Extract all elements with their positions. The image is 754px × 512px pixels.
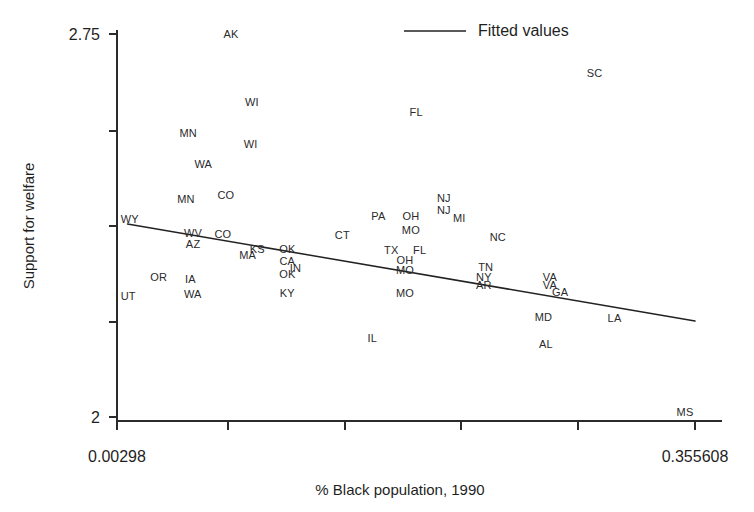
legend: Fitted values <box>404 22 569 39</box>
data-point-label: MD <box>535 311 553 323</box>
data-point-label: KY <box>280 287 296 299</box>
x-axis-title: % Black population, 1990 <box>315 481 484 498</box>
data-point-label: OK <box>279 268 296 280</box>
data-point-label: OH <box>402 210 419 222</box>
data-point-label: GA <box>552 286 569 298</box>
data-point-label: NJ <box>437 192 451 204</box>
x-tick-label-right: 0.355608 <box>662 448 729 465</box>
data-point-label: OK <box>279 243 296 255</box>
y-axis-title: Support for welfare <box>20 163 37 290</box>
data-point-label: CO <box>214 228 231 240</box>
data-point-label: AL <box>539 338 553 350</box>
data-point-label: MA <box>239 249 256 261</box>
data-point-label: PA <box>371 210 386 222</box>
plot-canvas: 2.75 2 0.00298 0.355608 Support for welf… <box>0 0 754 512</box>
data-point-label: MN <box>177 193 195 205</box>
y-axis-ticks <box>109 34 117 417</box>
x-tick-label-left: 0.00298 <box>88 448 146 465</box>
data-point-label: FL <box>413 244 426 256</box>
data-point-label: AR <box>476 279 492 291</box>
data-point-label: WY <box>121 213 140 225</box>
data-point-label: WI <box>245 96 259 108</box>
data-point-label: WA <box>194 158 212 170</box>
data-point-label: WA <box>184 288 202 300</box>
y-tick-label-top: 2.75 <box>69 26 100 43</box>
data-point-label: IL <box>368 332 378 344</box>
data-point-label: MO <box>396 287 414 299</box>
data-point-label: WI <box>244 138 258 150</box>
data-point-label: CO <box>217 189 234 201</box>
data-point-label: UT <box>121 290 136 302</box>
legend-label-fitted: Fitted values <box>478 22 569 39</box>
x-axis-ticks <box>117 421 695 430</box>
data-point-label: MI <box>453 212 466 224</box>
data-point-label: NJ <box>437 204 451 216</box>
data-point-label: NC <box>490 231 506 243</box>
data-point-label: WV <box>184 227 203 239</box>
scatter-plot-figure: 2.75 2 0.00298 0.355608 Support for welf… <box>0 0 754 512</box>
data-point-label: LA <box>608 312 622 324</box>
data-point-label: MS <box>677 406 694 418</box>
y-tick-label-bottom: 2 <box>91 409 100 426</box>
data-point-label: AZ <box>186 238 201 250</box>
data-point-label: OR <box>150 271 167 283</box>
data-point-label: MO <box>402 224 420 236</box>
data-point-label: AK <box>223 28 239 40</box>
data-point-label: CT <box>335 229 350 241</box>
data-point-label: FL <box>410 106 423 118</box>
data-point-layer: AKWIFLSCMNWIWAMNCONJNJMIWYPAOHMOWVCOCTNC… <box>121 28 694 418</box>
data-point-label: MN <box>179 127 197 139</box>
data-point-label: IA <box>185 273 196 285</box>
data-point-label: SC <box>587 67 603 79</box>
data-point-label: MO <box>396 264 414 276</box>
